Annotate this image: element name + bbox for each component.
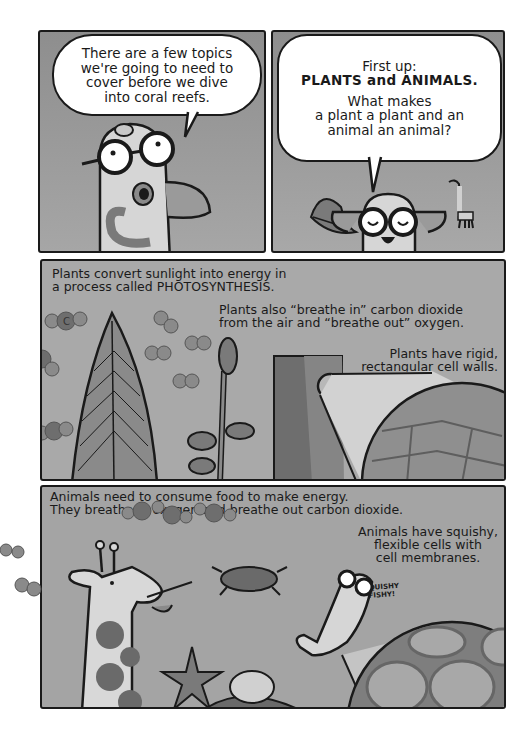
svg-text:C: C — [63, 316, 70, 327]
animal-scene-illustration — [42, 487, 506, 709]
fish-character-icon — [40, 32, 266, 253]
panel-4: Animals need to consume food to make ene… — [40, 485, 506, 709]
fish-character-icon — [273, 32, 505, 253]
panel-3: Plants convert sunlight into energy in a… — [40, 259, 506, 481]
panel-1: There are a few topics we're going to ne… — [38, 30, 266, 253]
fern-leaf-icon — [42, 261, 506, 481]
panel-2: First up: PLANTS and ANIMALS. What makes… — [271, 30, 505, 253]
